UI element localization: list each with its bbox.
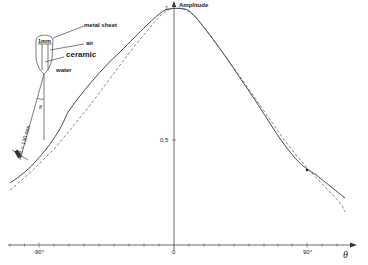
x-tick-label-neg90: -90° <box>33 249 45 255</box>
y-tick-label-0-5: 0,5 <box>160 137 169 143</box>
label-metal-sheet: metal sheet <box>84 22 117 28</box>
x-tick-label-90: 90° <box>303 249 313 255</box>
y-axis: Amplitude 1 0,5 <box>160 1 209 250</box>
measured-curve <box>10 8 345 198</box>
leader-metal-sheet <box>53 26 84 38</box>
label-angle: θ <box>39 104 42 110</box>
label-radius: R = 130 mm <box>17 124 31 155</box>
directivity-figure: -90° 0 90° θ Amplitude 1 0,5 metal sheet… <box>0 0 368 265</box>
x-axis-label: θ <box>343 249 348 260</box>
y-axis-arrow-icon <box>172 1 176 7</box>
label-ceramic: ceramic <box>66 50 97 59</box>
data-point-marker <box>306 169 309 172</box>
label-width: 1mm <box>38 38 51 44</box>
label-water: water <box>55 67 72 73</box>
x-axis: -90° 0 90° θ <box>8 243 357 261</box>
theoretical-curve <box>10 8 345 212</box>
y-axis-label: Amplitude <box>179 2 209 8</box>
angle-arc <box>37 98 44 99</box>
x-axis-arrow-icon <box>350 243 357 248</box>
label-air: air <box>86 40 94 46</box>
